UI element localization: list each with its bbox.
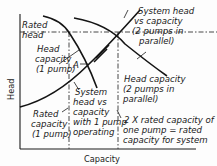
system-2p-label-2: vs capacity [134, 16, 183, 26]
twice-rated-label-3: capacity for system [123, 135, 208, 145]
system-2p-label-4: parallel) [138, 36, 174, 46]
x-axis-label: Capacity [84, 154, 120, 164]
leader-rated-capacity [62, 108, 68, 112]
y-axis-label: Head [6, 79, 16, 100]
system-1p-label-3: capacity [73, 107, 110, 117]
rated-capacity-label: Rated [33, 109, 59, 119]
system-1p-label: System [75, 87, 107, 97]
twice-rated-label-2: one pump = rated [123, 125, 203, 135]
head-capacity-1p-label-2: capacity [35, 54, 72, 64]
head-capacity-2p-label-2: (2 pumps in [123, 84, 174, 94]
system-2p-label-3: (2 pumps in [132, 26, 183, 36]
head-capacity-1p-label-3: (1 pump) [36, 64, 76, 74]
point-a-label: A [72, 60, 79, 70]
head-capacity-2p-label: Head capacity [124, 74, 186, 84]
system-1p-label-5: operating [73, 127, 115, 137]
system-2p-label: System head [138, 6, 195, 16]
diagram-canvas: Rated head Head capacity (1 pump) A Syst… [0, 0, 217, 166]
rated-head-label: Rated [22, 20, 48, 30]
rated-head-label-2: head [22, 30, 44, 40]
leader-system-2-pumps [124, 10, 128, 18]
system-1p-label-2: head vs [73, 97, 107, 107]
head-capacity-2p-label-3: parallel) [122, 94, 158, 104]
system-head-offset-mark-2 [94, 49, 107, 62]
system-head-offset-mark [96, 45, 109, 58]
pump-curve-diagram: Rated head Head capacity (1 pump) A Syst… [0, 0, 217, 166]
twice-rated-label: 2 X rated capacity of [124, 115, 216, 125]
rated-capacity-label-3: (1 pump) [32, 129, 72, 139]
system-1p-label-4: with 1 pump [73, 117, 127, 127]
head-capacity-1p-label: Head [37, 44, 60, 54]
rated-capacity-label-2: capacity [31, 119, 68, 129]
